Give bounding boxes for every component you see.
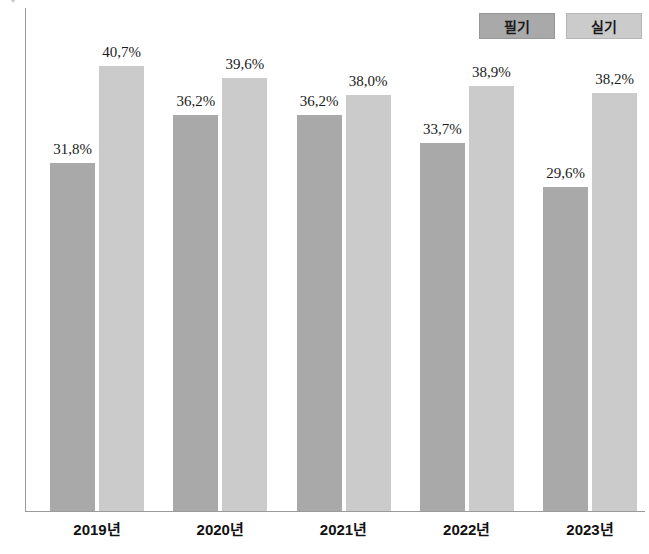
bar-value-label: 36,2% — [300, 93, 339, 110]
bar[interactable] — [173, 115, 218, 511]
bar[interactable] — [543, 187, 588, 511]
bar[interactable] — [99, 66, 144, 511]
bar-group: 31,8%40,7% — [50, 8, 144, 511]
bar-value-label: 38,9% — [472, 64, 511, 81]
x-axis-label: 2020년 — [173, 518, 267, 539]
x-axis-line — [25, 511, 645, 512]
bar-group: 36,2%39,6% — [173, 8, 267, 511]
bar-value-label: 38,2% — [595, 71, 634, 88]
bar-group: 33,7%38,9% — [420, 8, 514, 511]
x-axis-label: 2019년 — [50, 518, 144, 539]
x-axis-label: 2023년 — [543, 518, 637, 539]
bar-value-label: 36,2% — [176, 93, 215, 110]
bar-value-label: 40,7% — [102, 44, 141, 61]
bar[interactable] — [592, 93, 637, 511]
x-axis-label: 2022년 — [420, 518, 514, 539]
bar-value-label: 33,7% — [423, 121, 462, 138]
bar-group: 36,2%38,0% — [297, 8, 391, 511]
bar[interactable] — [469, 86, 514, 511]
x-axis-category-labels: 2019년2020년2021년2022년2023년 — [26, 518, 645, 548]
x-axis-label: 2021년 — [297, 518, 391, 539]
bar-value-label: 31,8% — [53, 141, 92, 158]
bar-chart: 필기 실기 31,8%40,7%36,2%39,6%36,2%38,0%33,7… — [0, 0, 649, 554]
bar[interactable] — [50, 163, 95, 511]
plot-area: 31,8%40,7%36,2%39,6%36,2%38,0%33,7%38,9%… — [26, 8, 645, 511]
corner-marker-icon — [6, 0, 20, 8]
bar-value-label: 29,6% — [546, 165, 585, 182]
bar[interactable] — [297, 115, 342, 511]
bar[interactable] — [420, 143, 465, 512]
bar[interactable] — [222, 78, 267, 511]
bar-value-label: 39,6% — [225, 56, 264, 73]
bar[interactable] — [346, 95, 391, 511]
bar-value-label: 38,0% — [349, 73, 388, 90]
bar-group: 29,6%38,2% — [543, 8, 637, 511]
